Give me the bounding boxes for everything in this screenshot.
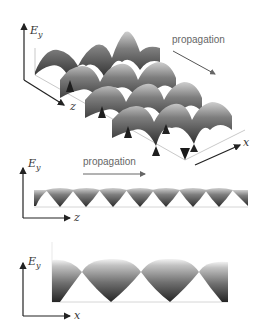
- trough-row-z: [34, 188, 248, 207]
- wave-surface: [35, 31, 232, 160]
- panel-3d: [24, 24, 245, 165]
- trough-row-x: [52, 259, 228, 302]
- axis-label-z-side: z: [74, 212, 80, 223]
- axis-label-ey-z: Ey: [28, 158, 41, 172]
- axis-z-3d: [24, 80, 64, 105]
- propagation-label-3d: propagation: [172, 35, 225, 45]
- axis-label-x-3d: x: [243, 137, 249, 148]
- axis-label-x-side: x: [74, 310, 80, 321]
- axis-label-z-3d: z: [70, 101, 76, 112]
- axis-label-ey-x: Ey: [28, 256, 41, 270]
- panel-side-z: [23, 168, 248, 218]
- panel-side-x: [23, 242, 228, 316]
- propagation-arrow-3d: [173, 51, 215, 74]
- axis-x-3d: [195, 145, 240, 165]
- axis-label-ey-3d: Ey: [30, 25, 43, 39]
- propagation-label-z: propagation: [83, 157, 136, 167]
- wave-propagation-figure: Ey z x propagation Ey z propagation Ey x: [0, 0, 258, 333]
